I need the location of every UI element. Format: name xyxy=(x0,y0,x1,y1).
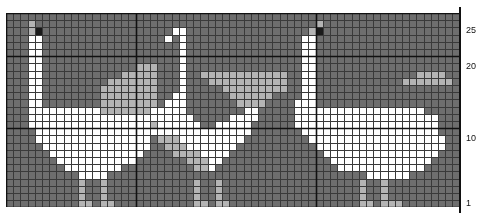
chart-grid[interactable] xyxy=(6,13,460,207)
knitting-chart: 2520101 xyxy=(0,0,491,213)
row-label: 10 xyxy=(466,134,476,143)
row-label: 20 xyxy=(466,62,476,71)
row-label: 1 xyxy=(466,199,471,208)
chart-grid-canvas[interactable] xyxy=(6,13,460,207)
row-axis xyxy=(459,7,461,213)
row-label: 25 xyxy=(466,26,476,35)
